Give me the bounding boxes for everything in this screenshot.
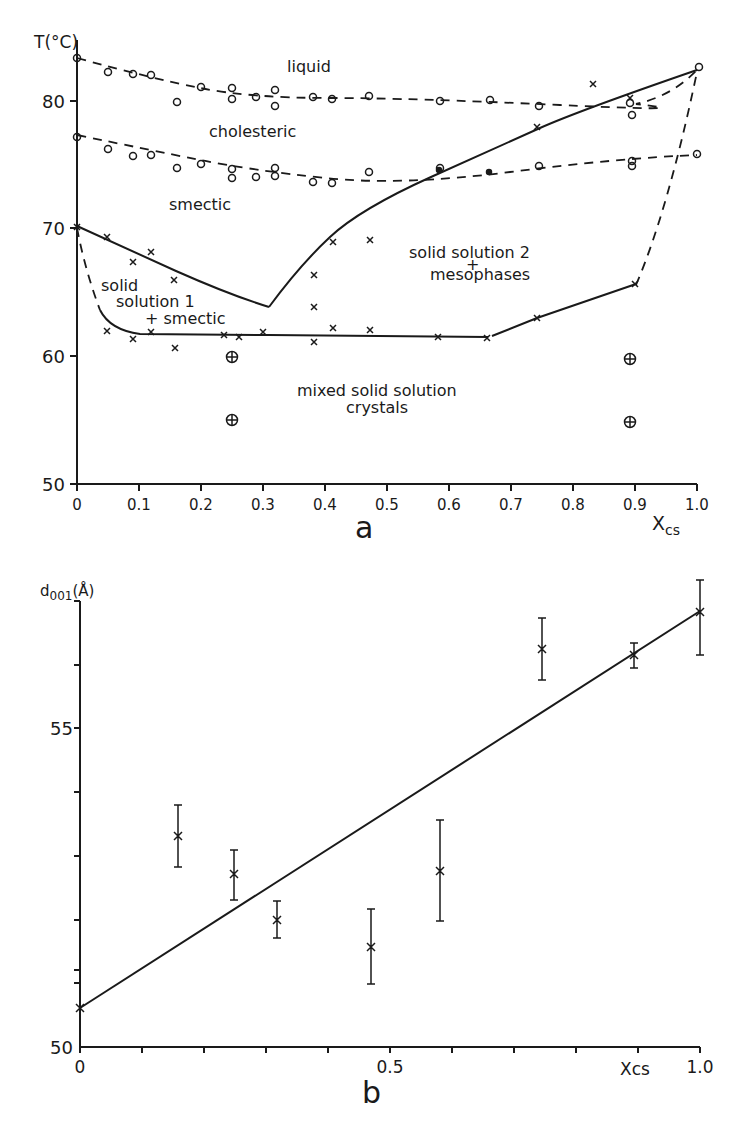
x-tick-0.1: 0.1	[127, 496, 151, 514]
region-mixed-line2: crystals	[346, 398, 408, 417]
y-tick-55: 55	[50, 718, 73, 739]
x-axis-label: Xcs	[652, 512, 680, 538]
x-tick-0.5: 0.5	[375, 496, 399, 514]
phase-diagram-chart: T(°C) 80 70 60 50 0 0.1 0.2 0.3 0.4 0.5 …	[33, 32, 709, 545]
panel-label-a: a	[355, 510, 373, 545]
x-tick-0.8: 0.8	[561, 496, 585, 514]
x-tick-0.6: 0.6	[437, 496, 461, 514]
region-smectic: smectic	[169, 195, 231, 214]
x-tick-0.7: 0.7	[499, 496, 523, 514]
x-tick-0.5: 0.5	[376, 1057, 403, 1077]
y-tick-60: 60	[42, 346, 65, 367]
x-tick-0: 0	[75, 1057, 86, 1077]
y-axis-label: T(°C)	[33, 32, 78, 52]
y-ticks	[70, 101, 77, 484]
figure: T(°C) 80 70 60 50 0 0.1 0.2 0.3 0.4 0.5 …	[0, 0, 746, 1137]
x-tick-1.0: 1.0	[686, 1057, 713, 1077]
x-tick-0.9: 0.9	[623, 496, 647, 514]
y-tick-50: 50	[42, 474, 65, 495]
linear-fit-line	[80, 611, 700, 1008]
region-cholesteric: cholesteric	[209, 122, 296, 141]
layer-spacing-chart: d001(Å) 55 50 0 0.5 1.0 Xcs b	[40, 580, 714, 1110]
x-tick-0.4: 0.4	[313, 496, 337, 514]
x-axis-label: Xcs	[620, 1059, 650, 1079]
y-axis-label: d001(Å)	[40, 581, 94, 603]
y-tick-80: 80	[42, 91, 65, 112]
region-ss2-line2: mesophases	[430, 265, 530, 284]
x-ticks	[77, 484, 697, 491]
region-liquid: liquid	[287, 57, 331, 76]
x-tick-1.0: 1.0	[685, 496, 709, 514]
circle-markers	[74, 55, 703, 187]
data-points-with-error-bars	[76, 580, 704, 1012]
y-tick-50: 50	[50, 1037, 73, 1058]
x-tick-0.2: 0.2	[189, 496, 213, 514]
panel-label-b: b	[362, 1075, 381, 1110]
x-tick-0: 0	[72, 496, 82, 514]
y-tick-70: 70	[42, 218, 65, 239]
x-tick-0.3: 0.3	[251, 496, 275, 514]
region-ss1-line3: + smectic	[145, 309, 226, 328]
